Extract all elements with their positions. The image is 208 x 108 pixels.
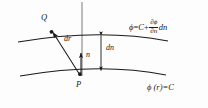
point-p-marker — [78, 72, 82, 76]
point-q-marker — [50, 30, 54, 34]
diagram-svg — [0, 0, 208, 108]
upper-surface-equation: ϕ=C+∂ϕ∂ndn — [129, 19, 167, 36]
point-p-label: P — [76, 80, 81, 89]
partial-derivative-fraction: ∂ϕ∂n — [149, 19, 158, 36]
figure-canvas: ϕ=C+∂ϕ∂ndn ϕ (r)=C Q P dr n dn — [0, 0, 208, 108]
n-vector-label: n — [86, 51, 90, 59]
lower-level-curve — [20, 69, 166, 76]
differential-dn: dn — [159, 22, 168, 32]
dr-vector-label: dr — [64, 35, 71, 43]
lower-surface-equation: ϕ (r)=C — [147, 83, 174, 92]
point-q-label: Q — [41, 13, 47, 22]
fraction-denominator: ∂n — [149, 28, 158, 36]
upper-level-curve — [18, 35, 168, 42]
dn-distance-label: dn — [106, 44, 114, 52]
plus-sign: + — [144, 22, 149, 32]
